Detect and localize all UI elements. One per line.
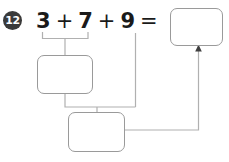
- partial-sum-box-1[interactable]: [37, 55, 93, 94]
- problem-number-badge: 12: [3, 11, 22, 30]
- equation-expression: 3 + 7 + 9 =: [36, 8, 160, 34]
- equation-term-2: 7: [78, 9, 93, 33]
- equation-term-1: 3: [36, 9, 51, 33]
- equation-operator-2: +: [93, 9, 121, 33]
- final-answer-box[interactable]: [170, 8, 223, 46]
- worksheet-problem-canvas: 12 3 + 7 + 9 =: [0, 0, 229, 162]
- equation-term-3: 9: [120, 9, 135, 33]
- equation-operator-1: +: [51, 9, 79, 33]
- equation-equals-sign: =: [135, 9, 160, 33]
- bracket-partial-plus-9-icon: [65, 94, 136, 107]
- partial-sum-box-2[interactable]: [68, 112, 125, 152]
- arrow-to-final-answer-path: [125, 50, 199, 130]
